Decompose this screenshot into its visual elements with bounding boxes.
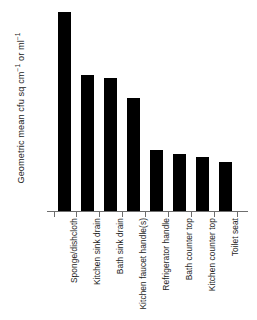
x-tick-label: Sponge/dishcloth	[69, 218, 79, 283]
y-axis-label-part2: or ml	[16, 40, 26, 64]
x-tick-label-slot: Kitchen sink drain	[81, 218, 95, 318]
x-tick-label-slot: Kitchen counter top	[196, 218, 210, 318]
y-axis-label-exponent-1: −1	[14, 63, 21, 71]
x-axis-tick	[99, 212, 100, 217]
x-tick-label: Kitchen counter top	[207, 218, 217, 291]
bar	[127, 98, 140, 212]
x-tick-label-slot: Kitchen faucet handle(s)	[127, 218, 141, 318]
x-tick-label: Toilet seat	[230, 218, 240, 256]
x-tick-label: Bath sink drain	[115, 218, 125, 274]
x-axis-tick	[76, 212, 77, 217]
x-axis-line	[47, 211, 248, 212]
bar	[81, 75, 94, 212]
bar	[150, 150, 163, 212]
bar	[196, 157, 209, 212]
bar	[58, 12, 71, 212]
y-axis-label: Geometric mean cfu sq cm−1 or ml−1	[16, 32, 26, 183]
x-axis-tick	[145, 212, 146, 217]
x-tick-label-slot: Sponge/dishcloth	[58, 218, 72, 318]
bar-series	[47, 6, 247, 212]
bar	[219, 162, 232, 212]
x-tick-label-slot: Refrigerator handle	[150, 218, 164, 318]
x-axis-tick-labels: Sponge/dishclothKitchen sink drainBath s…	[47, 218, 252, 318]
bar-chart-figure: Geometric mean cfu sq cm−1 or ml−1 Spong…	[0, 0, 257, 320]
x-axis-tick	[237, 212, 238, 217]
x-axis-tick	[168, 212, 169, 217]
bar	[173, 154, 186, 212]
x-tick-label: Refrigerator handle	[161, 218, 171, 291]
plot-area	[47, 6, 247, 212]
x-tick-label: Kitchen sink drain	[92, 218, 102, 285]
x-axis-tick	[122, 212, 123, 217]
x-axis-tick	[214, 212, 215, 217]
x-axis-tick	[54, 212, 55, 217]
x-tick-label: Bath counter top	[184, 218, 194, 280]
x-tick-label: Kitchen faucet handle(s)	[138, 218, 148, 310]
x-tick-label-slot: Bath counter top	[173, 218, 187, 318]
x-tick-label-slot: Bath sink drain	[104, 218, 118, 318]
x-axis-tick	[191, 212, 192, 217]
y-axis-label-container: Geometric mean cfu sq cm−1 or ml−1	[8, 0, 34, 215]
y-axis-label-part1: Geometric mean cfu sq cm	[16, 71, 26, 183]
bar	[104, 78, 117, 212]
y-axis-label-exponent-2: −1	[14, 32, 21, 40]
x-tick-label-slot: Toilet seat	[219, 218, 233, 318]
